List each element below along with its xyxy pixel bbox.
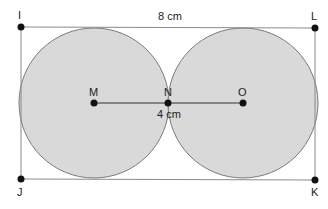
label-M: M (89, 86, 98, 98)
point-J (18, 176, 25, 183)
label-L: L (311, 10, 317, 22)
point-M (91, 100, 98, 107)
point-L (312, 25, 319, 32)
label-J: J (17, 186, 23, 198)
point-N (165, 100, 172, 107)
edge-IL (21, 27, 315, 28)
top-length-label: 8 cm (158, 10, 182, 22)
edge-JK (21, 179, 315, 180)
geometry-diagram: I L J K M N O 8 cm 4 cm (0, 0, 328, 209)
segment-length-label: 4 cm (157, 108, 181, 120)
point-O (240, 100, 247, 107)
point-I (18, 24, 25, 31)
label-K: K (311, 186, 319, 198)
label-I: I (18, 9, 21, 21)
label-O: O (238, 86, 247, 98)
label-N: N (164, 86, 172, 98)
point-K (312, 177, 319, 184)
